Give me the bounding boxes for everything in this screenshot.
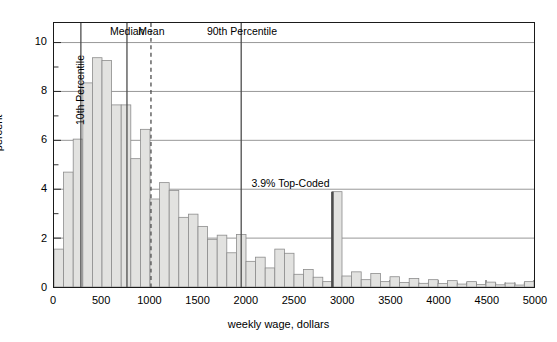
histogram-bar bbox=[64, 172, 74, 287]
annotation-label-mean: Mean bbox=[138, 25, 164, 37]
histogram-bar bbox=[92, 58, 102, 287]
histogram-bar bbox=[284, 253, 294, 287]
histogram-bar bbox=[428, 280, 438, 287]
histogram-bar bbox=[160, 183, 170, 287]
histogram-bar bbox=[342, 276, 352, 287]
histogram-bar bbox=[131, 159, 141, 287]
histogram-bar bbox=[400, 283, 410, 287]
histogram-bar bbox=[198, 226, 208, 287]
histogram-bar bbox=[275, 249, 285, 287]
histogram-bar bbox=[246, 261, 256, 287]
x-tick-label: 1000 bbox=[124, 294, 174, 306]
histogram-bar bbox=[448, 281, 458, 287]
histogram-bar bbox=[352, 272, 362, 287]
histogram-bar bbox=[256, 257, 266, 287]
y-tick-label: 6 bbox=[23, 133, 47, 145]
histogram-bar bbox=[265, 268, 275, 287]
histogram-bar bbox=[140, 129, 150, 287]
histogram-bar bbox=[188, 214, 198, 287]
histogram-bar bbox=[438, 284, 448, 287]
y-tick-label: 10 bbox=[23, 35, 47, 47]
annotation-label-10th-percentile: 10th Percentile bbox=[74, 55, 86, 125]
histogram-bar bbox=[112, 105, 122, 287]
histogram-bar bbox=[294, 274, 304, 287]
histogram-bar bbox=[102, 60, 112, 287]
histogram-bar bbox=[323, 282, 333, 287]
y-tick-label: 4 bbox=[23, 182, 47, 194]
histogram-bar bbox=[361, 280, 371, 287]
histogram-bar bbox=[419, 283, 429, 287]
y-axis-title: percent bbox=[0, 115, 4, 152]
histogram-bar bbox=[409, 278, 419, 287]
x-tick-label: 3000 bbox=[317, 294, 367, 306]
histogram-bar bbox=[380, 282, 390, 287]
histogram-bar bbox=[208, 239, 218, 287]
histogram-bar bbox=[227, 253, 237, 287]
x-tick-label: 3500 bbox=[365, 294, 415, 306]
x-tick-label: 1500 bbox=[173, 294, 223, 306]
annotation-label-top-coded: 3.9% Top-Coded bbox=[252, 177, 330, 189]
x-tick-label: 2000 bbox=[221, 294, 271, 306]
x-tick-label: 0 bbox=[28, 294, 78, 306]
histogram-bar bbox=[496, 285, 506, 287]
histogram-bar bbox=[179, 217, 189, 287]
histogram-bar bbox=[304, 269, 314, 287]
x-tick-label: 4000 bbox=[414, 294, 464, 306]
histogram-bar bbox=[486, 282, 496, 287]
histogram-bar bbox=[476, 285, 486, 287]
y-tick-label: 8 bbox=[23, 84, 47, 96]
histogram-bar bbox=[313, 277, 323, 287]
histogram-bar bbox=[515, 285, 525, 287]
histogram-bar bbox=[54, 249, 64, 287]
histogram-bar bbox=[524, 282, 534, 287]
x-tick-label: 2500 bbox=[269, 294, 319, 306]
histogram-bar bbox=[505, 283, 515, 287]
histogram-bar bbox=[121, 105, 131, 287]
histogram-bar bbox=[467, 282, 477, 287]
plot-area: 10th PercentileMedianMean90th Percentile… bbox=[53, 22, 535, 288]
histogram-figure: 10th PercentileMedianMean90th Percentile… bbox=[0, 0, 557, 342]
histogram-bar bbox=[457, 284, 467, 287]
y-tick-label: 0 bbox=[23, 281, 47, 293]
annotation-label-90th-percentile: 90th Percentile bbox=[207, 25, 277, 37]
histogram-bar bbox=[217, 235, 227, 287]
chart-canvas bbox=[54, 23, 534, 287]
histogram-bar bbox=[390, 277, 400, 287]
x-axis-title: weekly wage, dollars bbox=[0, 318, 557, 330]
x-tick-label: 4500 bbox=[462, 294, 512, 306]
x-tick-label: 500 bbox=[76, 294, 126, 306]
x-tick-label: 5000 bbox=[510, 294, 557, 306]
histogram-bar bbox=[371, 274, 381, 287]
histogram-bar bbox=[169, 190, 179, 287]
y-tick-label: 2 bbox=[23, 232, 47, 244]
histogram-bar bbox=[332, 192, 342, 287]
